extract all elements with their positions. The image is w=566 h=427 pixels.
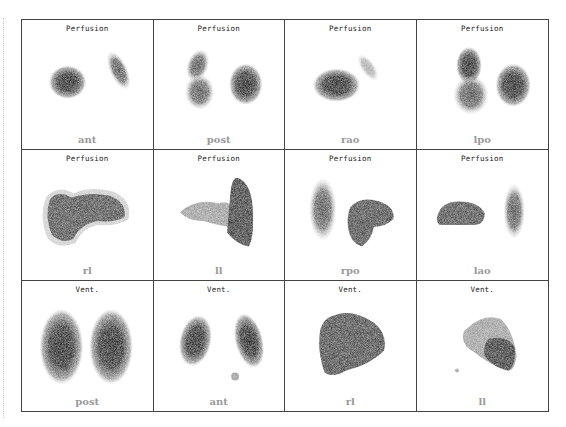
panel-title: Vent.: [285, 285, 416, 294]
panel-view-label: ant: [154, 396, 285, 407]
panel-view-label: ll: [154, 265, 285, 276]
panel-view-label: ant: [22, 134, 153, 145]
scan-image: [26, 168, 149, 261]
scan-panel-vent-ant: Vent. ant: [154, 281, 286, 411]
scan-image: [158, 168, 281, 261]
panel-title: Perfusion: [22, 154, 153, 163]
scan-panel-vent-ll: Vent. ll: [417, 281, 549, 411]
scan-image: [289, 299, 412, 393]
scan-panel-vent-post: Vent. post: [22, 281, 154, 411]
scan-image: [421, 168, 545, 261]
panel-view-label: rl: [285, 396, 416, 407]
scan-image: [26, 38, 149, 131]
scan-image: [158, 299, 281, 393]
scan-panel-perfusion-rl: Perfusion rl: [22, 150, 154, 280]
scan-panel-perfusion-rpo: Perfusion rpo: [285, 150, 417, 280]
panel-title: Perfusion: [154, 24, 285, 33]
scan-panel-perfusion-lpo: Perfusion lpo: [417, 20, 549, 150]
scan-image: [26, 299, 149, 393]
scan-panel-perfusion-ll: Perfusion ll: [154, 150, 286, 280]
panel-title: Vent.: [417, 285, 549, 294]
scan-image: [421, 299, 545, 393]
panel-title: Perfusion: [154, 154, 285, 163]
panel-view-label: ll: [417, 396, 549, 407]
scan-image: [158, 38, 281, 131]
scan-panel-perfusion-ant: Perfusion: [22, 20, 154, 150]
scan-panel-perfusion-post: Perfusion post: [154, 20, 286, 150]
panel-view-label: rao: [285, 134, 416, 145]
panel-view-label: rl: [22, 265, 153, 276]
panel-title: Perfusion: [417, 154, 549, 163]
scan-panel-perfusion-lao: Perfusion lao: [417, 150, 549, 280]
panel-title: Perfusion: [285, 24, 416, 33]
panel-view-label: post: [22, 396, 153, 407]
lung-scan-grid: Perfusion: [21, 19, 549, 412]
panel-view-label: rpo: [285, 265, 416, 276]
scan-image: [289, 38, 412, 131]
panel-title: Vent.: [154, 285, 285, 294]
panel-title: Perfusion: [22, 24, 153, 33]
scan-panel-vent-rl: Vent. rl: [285, 281, 417, 411]
page-margin-dotted-line: [3, 18, 4, 418]
scan-image: [421, 38, 545, 131]
panel-view-label: post: [154, 134, 285, 145]
scan-image: [289, 168, 412, 261]
scan-panel-perfusion-rao: Perfusion rao: [285, 20, 417, 150]
panel-view-label: lao: [417, 265, 549, 276]
panel-title: Vent.: [22, 285, 153, 294]
panel-view-label: lpo: [417, 134, 549, 145]
panel-title: Perfusion: [285, 154, 416, 163]
panel-title: Perfusion: [417, 24, 549, 33]
